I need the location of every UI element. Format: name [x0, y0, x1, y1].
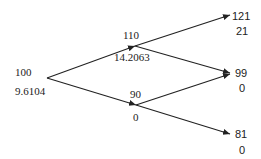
uu-price-label: 121 [232, 10, 250, 22]
root-value-label: 9.6104 [15, 85, 46, 97]
dd-price-label: 81 [235, 128, 247, 140]
down-price-label: 90 [130, 88, 142, 100]
up-value-label: 14.2063 [114, 51, 150, 63]
edge-down-to-dd [136, 105, 230, 134]
up-price-label: 110 [123, 29, 140, 41]
down-value-label: 0 [133, 111, 139, 123]
edge-root-to-down [47, 78, 136, 105]
edge-down-to-ud [136, 74, 230, 105]
uu-value-label: 21 [236, 25, 248, 37]
binomial-tree-diagram: 100 9.6104 110 14.2063 90 0 121 21 99 0 … [0, 0, 261, 159]
dd-value-label: 0 [239, 144, 245, 156]
ud-value-label: 0 [239, 82, 245, 94]
root-price-label: 100 [15, 66, 32, 78]
ud-price-label: 99 [235, 67, 247, 79]
edge-up-to-uu [135, 15, 230, 46]
